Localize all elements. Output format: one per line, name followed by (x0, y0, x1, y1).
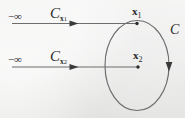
point-x2-label-index: 2 (139, 55, 143, 64)
upper-line-start-label: −∞ (8, 11, 21, 22)
lower-contour-arrowhead (70, 64, 79, 70)
lower-line-start-label: −∞ (8, 54, 21, 65)
upper-contour-label: Cx1 (50, 6, 67, 23)
upper-contour-arrowhead (70, 20, 79, 26)
point-x1-dot (135, 22, 138, 25)
point-x1-label: x1 (132, 6, 142, 20)
point-x2-dot (136, 65, 139, 68)
ellipse-contour-label: C (170, 23, 179, 37)
ellipse-orientation-arrowhead (166, 62, 173, 72)
lower-contour-label-base: C (50, 48, 60, 64)
lower-contour-subscript-index: 2 (64, 58, 67, 65)
point-x1-label-index: 1 (138, 11, 142, 20)
closed-contour-ellipse (105, 21, 169, 111)
contour-diagram-figure: −∞ Cx1 x1 −∞ Cx2 x2 C (0, 0, 185, 118)
upper-contour-subscript-index: 1 (64, 15, 67, 22)
upper-contour-label-base: C (50, 5, 60, 21)
lower-contour-label: Cx2 (50, 49, 67, 66)
diagram-vector-layer (0, 0, 185, 118)
point-x2-label: x2 (133, 50, 143, 64)
upper-contour-label-subscript: x1 (60, 14, 67, 23)
lower-contour-label-subscript: x2 (60, 57, 67, 66)
